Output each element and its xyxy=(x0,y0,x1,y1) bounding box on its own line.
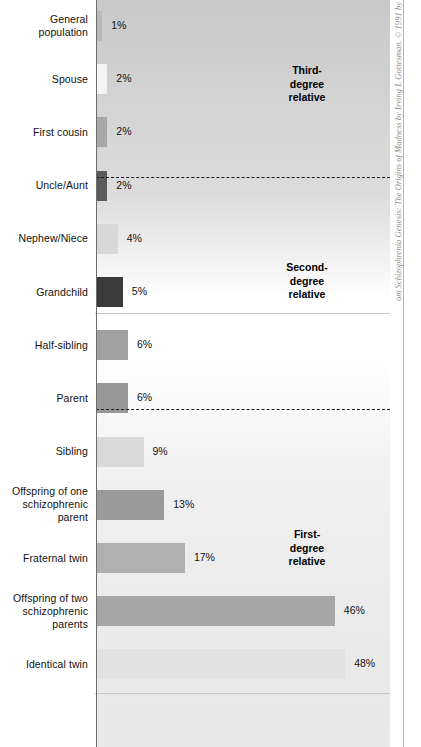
category-label: Sibling xyxy=(0,445,88,458)
bar xyxy=(97,117,107,147)
bar xyxy=(97,543,185,573)
bar-value-label: 48% xyxy=(354,657,375,669)
bar xyxy=(97,330,128,360)
bar xyxy=(97,277,123,307)
bar xyxy=(97,490,164,520)
category-label: Spouse xyxy=(0,73,88,86)
bar-chart-figure: 1%2%2%2%4%5%6%6%9%13%17%46%48% Third- de… xyxy=(0,0,421,747)
category-label: Uncle/Aunt xyxy=(0,179,88,192)
bar-value-label: 13% xyxy=(173,498,194,510)
category-label: Grandchild xyxy=(0,286,88,299)
bar xyxy=(97,171,107,201)
category-label-column: General populationSpouseFirst cousinUncl… xyxy=(0,0,95,747)
category-label: Nephew/Niece xyxy=(0,232,88,245)
category-label: Offspring of two schizophrenic parents xyxy=(0,592,88,631)
bar-value-label: 2% xyxy=(116,72,131,84)
bar-value-label: 1% xyxy=(111,19,126,31)
bar-value-label: 6% xyxy=(137,391,152,403)
bar-value-label: 4% xyxy=(127,232,142,244)
category-label: Offspring of one schizophrenic parent xyxy=(0,485,88,524)
category-label: Identical twin xyxy=(0,658,88,671)
category-label: Half-sibling xyxy=(0,339,88,352)
bar-value-label: 46% xyxy=(344,604,365,616)
plot-area xyxy=(96,0,390,747)
bar xyxy=(97,649,345,679)
credit-line: om Schizophrenia Genesis: The Origins of… xyxy=(390,0,406,747)
divider-third-to-second-degree xyxy=(96,177,390,178)
category-label: Fraternal twin xyxy=(0,552,88,565)
bar-value-label: 9% xyxy=(153,445,168,457)
category-label: General population xyxy=(0,13,88,39)
bar xyxy=(97,224,118,254)
bar-value-label: 2% xyxy=(116,179,131,191)
divider-second-to-first-degree xyxy=(96,409,390,410)
group-label-third-degree: Third- degree relative xyxy=(252,64,362,105)
bar xyxy=(97,437,144,467)
bar xyxy=(97,11,102,41)
group-label-second-degree: Second- degree relative xyxy=(252,261,362,302)
bar-value-label: 6% xyxy=(137,338,152,350)
bar xyxy=(97,596,335,626)
bar xyxy=(97,64,107,94)
bar-value-label: 17% xyxy=(194,551,215,563)
group-label-first-degree: First- degree relative xyxy=(252,528,362,569)
bar-value-label: 2% xyxy=(116,125,131,137)
bar-value-label: 5% xyxy=(132,285,147,297)
category-label: Parent xyxy=(0,392,88,405)
category-label: First cousin xyxy=(0,126,88,139)
vertical-axis-line xyxy=(96,0,97,747)
